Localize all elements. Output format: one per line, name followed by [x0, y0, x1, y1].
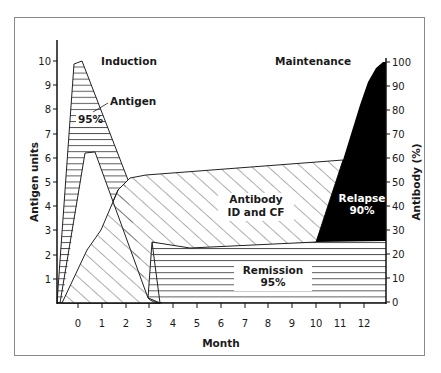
svg-text:40: 40 [392, 201, 405, 212]
antigen-pct-label: 95% [78, 113, 104, 125]
svg-text:8: 8 [45, 104, 51, 115]
svg-text:1: 1 [99, 318, 105, 329]
svg-text:100: 100 [392, 57, 411, 68]
svg-text:3: 3 [45, 225, 51, 236]
svg-text:20: 20 [392, 249, 405, 260]
svg-text:10: 10 [392, 273, 405, 284]
svg-text:6: 6 [218, 318, 224, 329]
antibody-label-line1: Antibody [229, 193, 282, 205]
left-axis-title: Antigen units [28, 142, 40, 222]
right-tick-labels: 0 10 20 30 40 50 60 70 80 90 100 [392, 57, 411, 308]
svg-text:4: 4 [45, 201, 51, 212]
relapse-pct-label: 90% [349, 204, 375, 216]
svg-text:50: 50 [392, 177, 405, 188]
svg-text:2: 2 [123, 318, 129, 329]
svg-text:9: 9 [289, 318, 295, 329]
svg-text:7: 7 [45, 129, 51, 140]
svg-text:4: 4 [170, 318, 176, 329]
svg-text:0: 0 [75, 318, 81, 329]
svg-text:90: 90 [392, 81, 405, 92]
x-tick-labels: 0 1 2 3 4 5 6 7 8 9 10 11 12 [75, 318, 371, 329]
antibody-label-line2: ID and CF [228, 206, 285, 218]
svg-text:80: 80 [392, 105, 405, 116]
chart-svg: 1 2 3 4 5 6 7 8 9 10 0 10 20 30 40 50 60… [0, 0, 441, 373]
svg-text:30: 30 [392, 225, 405, 236]
remission-label: Remission [243, 264, 304, 276]
svg-text:10: 10 [38, 56, 51, 67]
left-tick-labels: 1 2 3 4 5 6 7 8 9 10 [38, 56, 51, 285]
relapse-label: Relapse [339, 192, 386, 204]
svg-text:7: 7 [242, 318, 248, 329]
svg-text:70: 70 [392, 129, 405, 140]
induction-label: Induction [101, 55, 157, 67]
svg-text:1: 1 [45, 274, 51, 285]
svg-text:5: 5 [45, 177, 51, 188]
svg-text:12: 12 [358, 318, 371, 329]
svg-text:5: 5 [194, 318, 200, 329]
svg-text:2: 2 [45, 250, 51, 261]
svg-text:8: 8 [265, 318, 271, 329]
maintenance-label: Maintenance [275, 55, 351, 67]
svg-text:9: 9 [45, 80, 51, 91]
svg-text:3: 3 [146, 318, 152, 329]
remission-pct-label: 95% [260, 276, 286, 288]
svg-text:0: 0 [392, 297, 398, 308]
x-axis-title: Month [202, 337, 240, 349]
svg-text:60: 60 [392, 153, 405, 164]
svg-text:6: 6 [45, 153, 51, 164]
svg-text:10: 10 [310, 318, 323, 329]
antigen-label: Antigen [110, 95, 156, 107]
svg-text:11: 11 [334, 318, 347, 329]
right-axis-title: Antibody (%) [410, 143, 422, 220]
